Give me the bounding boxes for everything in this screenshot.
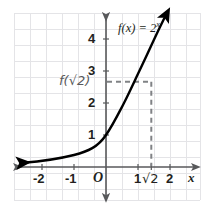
x-tick-label-sqrt2: √2	[142, 172, 159, 185]
y-tick-label-1: 1	[88, 128, 95, 141]
function-equation-label: f(x) = 2x	[118, 21, 160, 35]
x-tick-label-2: 2	[166, 172, 173, 185]
graph-canvas	[0, 0, 211, 212]
function-value-label: f(√2)	[59, 74, 90, 87]
function-equation-base: f(x) = 2	[118, 21, 156, 35]
origin-label: O	[93, 171, 103, 185]
x-tick-label-1: 1	[134, 172, 141, 185]
x-tick-label-neg2: -2	[33, 172, 45, 185]
x-tick-label-neg1: -1	[65, 172, 77, 185]
x-axis-label: x	[188, 171, 195, 184]
exponential-function-graph-figure: 4 3 2 1 -2 -1 1 2 √2 O x f(x) = 2x f(√2)	[0, 0, 211, 212]
y-tick-label-2: 2	[88, 96, 95, 109]
function-equation-exponent: x	[156, 20, 160, 29]
y-tick-label-4: 4	[88, 32, 95, 45]
